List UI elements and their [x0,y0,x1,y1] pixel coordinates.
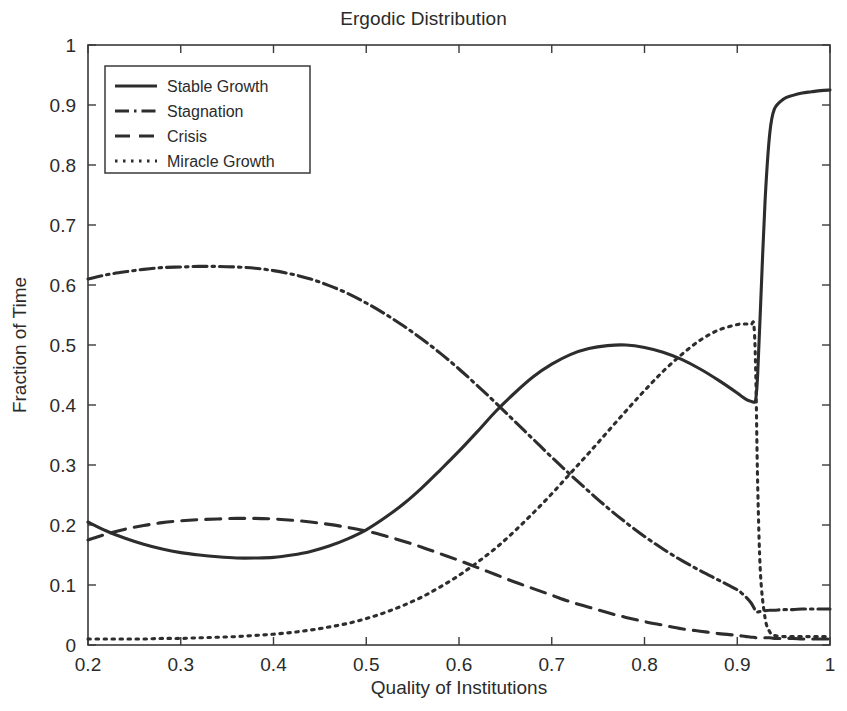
y-tick-label: 0.7 [50,215,76,236]
x-tick-label: 0.8 [631,654,657,675]
x-tick-label: 1 [825,654,836,675]
legend-label: Stagnation [167,103,244,120]
x-tick-label: 0.3 [168,654,194,675]
x-axis-title: Quality of Institutions [371,677,547,698]
y-axis-title: Fraction of Time [9,277,30,413]
x-tick-label: 0.7 [539,654,565,675]
series-line-stagnation [88,266,830,612]
x-tick-label: 0.9 [724,654,750,675]
y-tick-label: 0.1 [50,575,76,596]
x-tick-label: 0.5 [353,654,379,675]
y-tick-label: 0 [65,635,76,656]
y-tick-labels: 00.10.20.30.40.50.60.70.80.91 [50,35,77,656]
chart-figure: Ergodic Distribution 0.20.30.40.50.60.70… [0,0,847,711]
y-tick-label: 0.6 [50,275,76,296]
x-tick-label: 0.4 [260,654,287,675]
x-tick-label: 0.6 [446,654,472,675]
x-tick-labels: 0.20.30.40.50.60.70.80.91 [75,654,836,675]
y-tick-label: 0.8 [50,155,76,176]
y-tick-label: 0.9 [50,95,76,116]
y-tick-label: 0.5 [50,335,76,356]
legend-label: Stable Growth [167,78,268,95]
y-tick-label: 1 [65,35,76,56]
legend-label: Crisis [167,128,207,145]
y-tick-label: 0.4 [50,395,77,416]
legend-label: Miracle Growth [167,153,275,170]
y-tick-label: 0.2 [50,515,76,536]
y-tick-label: 0.3 [50,455,76,476]
x-tick-label: 0.2 [75,654,101,675]
chart-legend: Stable GrowthStagnationCrisisMiracle Gro… [105,66,310,173]
plot-area: 0.20.30.40.50.60.70.80.91 00.10.20.30.40… [0,0,847,711]
